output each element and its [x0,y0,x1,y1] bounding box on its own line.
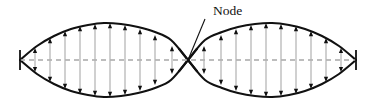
envelope-group [20,23,356,97]
displacement-arrow-left-10-head-down [170,69,174,74]
upper-envelope-segment-2 [188,23,356,60]
upper-envelope-segment-1 [20,23,188,60]
lower-envelope-segment-2 [188,60,356,97]
node-label: Node [213,3,242,18]
displacement-arrow-right-1-head-down [202,69,206,74]
displacement-arrow-right-1-head-up [202,46,206,51]
node-crossing-stroke-2 [188,60,197,71]
displacement-arrow-left-10-head-up [170,46,174,51]
displacement-arrow-left-9-head-up [153,35,157,40]
standing-wave-svg: Node [0,0,376,110]
displacement-arrow-left-8-head-up [138,29,142,34]
displacement-arrow-right-3-head-up [234,29,238,34]
standing-wave-diagram: Node [0,0,376,110]
displacement-arrow-left-8-head-down [138,86,142,91]
displacement-arrow-right-2-head-up [219,35,223,40]
node-crossing-stroke-1 [179,49,188,60]
lower-envelope-segment-1 [20,60,188,97]
displacement-arrow-right-3-head-down [234,86,238,91]
displacement-arrow-right-2-head-down [219,80,223,85]
displacement-arrow-left-9-head-down [153,80,157,85]
node-crossing-stroke-3 [179,60,188,71]
node-leader-line [188,19,205,60]
